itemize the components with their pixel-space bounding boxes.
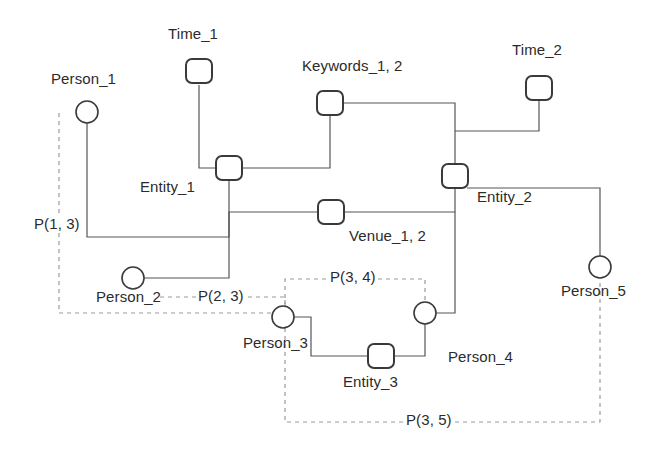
node-label-entity_1: Entity_1 [140, 178, 195, 195]
node-label-entity_2: Entity_2 [477, 188, 532, 205]
node-person_5[interactable] [589, 256, 611, 278]
node-entity_3[interactable] [368, 344, 394, 368]
edge-time1-entity1 [199, 85, 216, 168]
edge-label-p35: P(3, 5) [404, 411, 454, 428]
node-label-person_1: Person_1 [51, 70, 116, 87]
node-entity_1[interactable] [216, 156, 242, 180]
edge-person4-entity2 [436, 212, 455, 313]
node-person_1[interactable] [76, 101, 98, 123]
node-label-time_1: Time_1 [168, 25, 218, 42]
dashed-edge-p13 [59, 113, 272, 313]
node-venue_1_2[interactable] [318, 200, 344, 224]
nodes-group [76, 59, 611, 368]
node-label-venue_1_2: Venue_1, 2 [349, 227, 426, 244]
edge-entity3-person4 [394, 324, 425, 356]
edge-label-p13: P(1, 3) [32, 215, 82, 232]
edge-venue-entity1 [229, 212, 319, 237]
dashed-edge-p35 [285, 278, 600, 422]
edge-label-p23: P(2, 3) [196, 287, 246, 304]
edge-person2-entity1 [144, 237, 229, 278]
edge-label-p34: P(3, 4) [328, 268, 378, 285]
node-person_4[interactable] [414, 302, 436, 324]
node-label-person_3: Person_3 [243, 334, 308, 351]
edge-time2-entity2 [455, 100, 539, 131]
diagram-canvas: Time_1Person_1Entity_1Keywords_1, 2Time_… [0, 0, 668, 450]
node-keywords_1_2[interactable] [317, 91, 343, 115]
node-entity_2[interactable] [442, 164, 468, 188]
node-person_3[interactable] [272, 306, 294, 328]
node-label-person_2: Person_2 [96, 288, 161, 305]
edge-keywords-entity1 [242, 115, 330, 168]
node-label-person_4: Person_4 [448, 348, 513, 365]
node-label-keywords_1_2: Keywords_1, 2 [302, 57, 403, 74]
edge-keywords-entity2 [338, 103, 455, 164]
edge-venue-entity2 [343, 188, 455, 212]
node-label-entity_3: Entity_3 [343, 373, 398, 390]
node-label-person_5: Person_5 [561, 282, 626, 299]
node-time_2[interactable] [526, 76, 552, 100]
node-person_2[interactable] [122, 267, 144, 289]
node-time_1[interactable] [186, 59, 212, 83]
node-label-time_2: Time_2 [512, 41, 562, 58]
